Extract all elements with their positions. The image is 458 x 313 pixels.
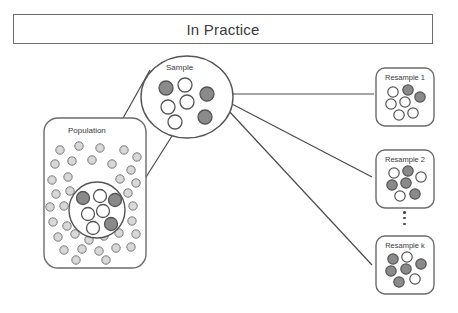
- population-dot: [128, 217, 136, 225]
- resample-dot: [410, 274, 420, 284]
- fan-line: [228, 110, 372, 265]
- resample-dot: [410, 189, 420, 199]
- resample-dot: [394, 110, 404, 120]
- resample-dot: [401, 178, 411, 188]
- sample-dot: [180, 95, 194, 109]
- resample-dot: [408, 108, 418, 118]
- resample-dot: [394, 277, 404, 287]
- population-dot: [88, 156, 96, 164]
- population-dot: [66, 187, 74, 195]
- population-dot: [127, 166, 135, 174]
- sample-dot: [198, 110, 212, 124]
- population-dot: [54, 233, 62, 241]
- population-dot: [102, 256, 110, 264]
- population-dot: [116, 175, 124, 183]
- resample-dot: [403, 85, 413, 95]
- vertical-ellipsis: [403, 208, 407, 230]
- sampled-dot: [105, 218, 118, 231]
- resample-dot: [416, 172, 426, 182]
- population-dot: [124, 189, 132, 197]
- sample-dot: [168, 115, 182, 129]
- population-dot: [49, 218, 57, 226]
- sample-label: Sample: [166, 63, 193, 72]
- resample-dot: [389, 168, 399, 178]
- population-dot: [108, 160, 116, 168]
- sampled-dot: [77, 192, 90, 205]
- population-label: Population: [68, 126, 106, 135]
- population-dot: [78, 245, 86, 253]
- population-dot: [48, 176, 56, 184]
- population-dot: [63, 222, 71, 230]
- resample-dot: [388, 254, 398, 264]
- population-dot: [75, 142, 83, 150]
- resample-label-3: Resample k: [385, 241, 425, 250]
- population-dot: [132, 230, 140, 238]
- population-dot: [112, 244, 120, 252]
- population-group: [44, 118, 146, 268]
- population-dot: [132, 179, 140, 187]
- population-dot: [68, 157, 76, 165]
- resample-dot: [402, 252, 412, 262]
- resample-dot: [386, 266, 396, 276]
- population-dot: [127, 243, 135, 251]
- sampled-dot: [94, 190, 107, 203]
- population-dot: [46, 203, 54, 211]
- resample-dot: [415, 92, 425, 102]
- sample-dot: [200, 87, 214, 101]
- sampled-dot: [82, 208, 95, 221]
- population-dot: [133, 153, 141, 161]
- resample-label-2: Resample 2: [385, 155, 425, 164]
- resample-dot: [416, 259, 426, 269]
- population-dot: [129, 202, 137, 210]
- sampled-dot: [97, 205, 110, 218]
- resample-label-1: Resample 1: [385, 73, 425, 82]
- fan-line: [230, 103, 372, 177]
- resample-dot: [403, 166, 413, 176]
- sampled-dot: [87, 222, 100, 235]
- diagram-svg: Resample 1Resample 2Resample k: [0, 0, 458, 313]
- sample-dot: [178, 78, 192, 92]
- population-dot: [60, 202, 68, 210]
- resample-dot: [401, 264, 411, 274]
- resample-dot: [395, 191, 405, 201]
- resample-dot: [400, 97, 410, 107]
- resample-dot: [387, 180, 397, 190]
- population-dot: [64, 173, 72, 181]
- population-dot: [52, 190, 60, 198]
- resample-dot: [386, 99, 396, 109]
- resample-group: Resample 1Resample 2Resample k: [376, 68, 434, 294]
- sampled-dot: [109, 194, 122, 207]
- diagram-canvas: In Practice Resample 1Resample 2Resample…: [0, 0, 458, 313]
- population-dot: [51, 160, 59, 168]
- population-dot: [95, 247, 103, 255]
- resample-dot: [388, 87, 398, 97]
- population-dot: [96, 144, 104, 152]
- sample-dot: [159, 81, 173, 95]
- population-dot: [72, 256, 80, 264]
- population-dot: [60, 246, 68, 254]
- sample-dot: [161, 100, 175, 114]
- population-dot: [120, 146, 128, 154]
- population-dot: [56, 146, 64, 154]
